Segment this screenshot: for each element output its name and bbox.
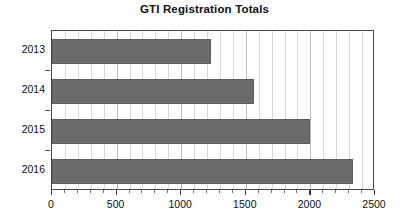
x-axis-tick-minor	[90, 190, 91, 193]
gridline-minor	[362, 31, 363, 189]
bar-2015	[52, 119, 310, 144]
y-axis-label-2013: 2013	[1, 43, 45, 55]
x-axis-label-2500: 2500	[362, 198, 385, 210]
bar-2014	[52, 79, 254, 104]
x-axis-tick-major	[309, 190, 310, 195]
x-axis-tick-minor	[271, 190, 272, 193]
x-axis-label-500: 500	[107, 198, 125, 210]
x-axis-tick-minor	[361, 190, 362, 193]
x-axis-tick-minor	[219, 190, 220, 193]
chart-title: GTI Registration Totals	[0, 3, 409, 15]
y-axis-tick	[45, 70, 50, 71]
x-axis-tick-minor	[335, 190, 336, 193]
bar-chart: GTI Registration Totals 2013201420152016…	[0, 0, 409, 223]
x-axis-tick-major	[374, 190, 375, 195]
x-axis-label-1000: 1000	[169, 198, 192, 210]
x-axis-tick-major	[180, 190, 181, 195]
x-axis-tick-minor	[284, 190, 285, 193]
x-axis-tick-minor	[206, 190, 207, 193]
y-axis-tick	[45, 110, 50, 111]
x-axis-label-0: 0	[48, 198, 54, 210]
x-axis: 05001000150020002500	[51, 190, 374, 223]
x-axis-tick-minor	[103, 190, 104, 193]
x-axis-tick-minor	[296, 190, 297, 193]
y-axis-label-2014: 2014	[1, 83, 45, 95]
x-axis-tick-minor	[77, 190, 78, 193]
x-axis-label-1500: 1500	[233, 198, 256, 210]
y-axis-tick	[45, 150, 50, 151]
x-axis-tick-major	[116, 190, 117, 195]
x-axis-tick-minor	[167, 190, 168, 193]
y-axis-label-2016: 2016	[1, 163, 45, 175]
x-axis-tick-minor	[348, 190, 349, 193]
x-axis-tick-minor	[64, 190, 65, 193]
x-axis-tick-minor	[322, 190, 323, 193]
x-axis-label-2000: 2000	[298, 198, 321, 210]
x-axis-tick-minor	[258, 190, 259, 193]
x-axis-tick-minor	[193, 190, 194, 193]
x-axis-tick-minor	[129, 190, 130, 193]
x-axis-tick-minor	[141, 190, 142, 193]
y-axis-label-2015: 2015	[1, 123, 45, 135]
x-axis-tick-minor	[232, 190, 233, 193]
x-axis-tick-major	[245, 190, 246, 195]
x-axis-tick-major	[51, 190, 52, 195]
plot-area	[51, 30, 374, 190]
bar-2016	[52, 159, 353, 184]
y-axis-category-labels: 2013201420152016	[0, 30, 45, 190]
bar-2013	[52, 39, 211, 64]
x-axis-tick-minor	[154, 190, 155, 193]
